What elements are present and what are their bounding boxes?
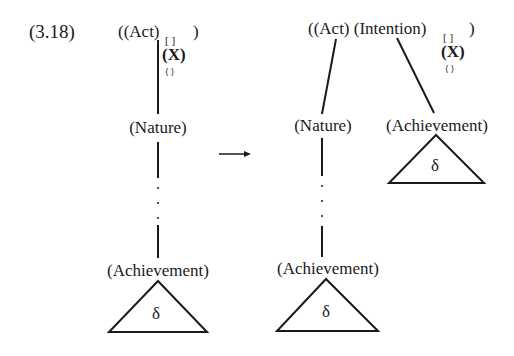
right-branch-intention-achievement bbox=[397, 38, 434, 113]
left-tree: ((Act) [ ] ) (X) ⟨ ⟩ (Nature) (Achieveme… bbox=[107, 22, 209, 332]
right-ellipsis-dot bbox=[321, 200, 323, 202]
right-top-triangle-delta: δ bbox=[431, 156, 439, 175]
left-nature-node: (Nature) bbox=[129, 118, 187, 137]
right-bottom-achievement-node: (Achievement) bbox=[277, 259, 379, 278]
left-root-feature-x: (X) bbox=[162, 45, 186, 64]
left-root-close-paren: ) bbox=[193, 22, 199, 41]
right-branch-act-nature bbox=[322, 39, 336, 114]
left-triangle-delta: δ bbox=[152, 304, 160, 323]
right-root-label: ((Act) (Intention) bbox=[308, 19, 426, 38]
right-tree: ((Act) (Intention) [ ] ) (X) ⟨ ⟩ (Nature… bbox=[277, 19, 488, 331]
right-ellipsis-dot bbox=[321, 185, 323, 187]
right-root-feature-x: (X) bbox=[441, 42, 465, 61]
right-root-feature-angle: ⟨ ⟩ bbox=[445, 64, 454, 74]
right-ellipsis-dot bbox=[321, 215, 323, 217]
derivation-arrow-icon bbox=[219, 151, 251, 157]
example-number: (3.18) bbox=[29, 21, 75, 43]
right-top-achievement-node: (Achievement) bbox=[386, 116, 488, 135]
right-bottom-triangle-delta: δ bbox=[322, 302, 330, 321]
left-ellipsis-dot bbox=[157, 202, 159, 204]
left-root-feature-angle: ⟨ ⟩ bbox=[165, 67, 174, 77]
left-root-label: ((Act) bbox=[118, 22, 160, 41]
derivation-diagram: (3.18) ((Act) [ ] ) (X) ⟨ ⟩ (Nature) (Ac… bbox=[0, 0, 514, 356]
right-nature-node: (Nature) bbox=[294, 116, 352, 135]
left-ellipsis-dot bbox=[157, 217, 159, 219]
right-root-close-paren: ) bbox=[469, 19, 475, 38]
left-ellipsis-dot bbox=[157, 187, 159, 189]
left-achievement-node: (Achievement) bbox=[107, 261, 209, 280]
